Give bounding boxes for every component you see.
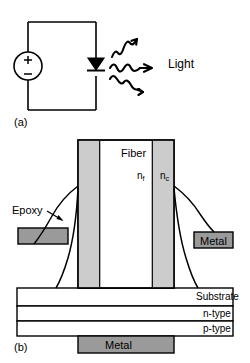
fiber-index-subscript: f xyxy=(143,174,145,183)
led-diode-symbol xyxy=(87,58,105,71)
fiber-index-label: nf xyxy=(137,171,145,182)
epoxy-fillet-right-outer xyxy=(174,186,214,232)
light-ray-middle xyxy=(110,64,152,72)
p-type-label: p-type xyxy=(203,324,231,334)
light-ray-lower xyxy=(110,76,143,95)
cladding-index-subscript: c xyxy=(166,174,170,183)
epoxy-label: Epoxy xyxy=(12,205,43,216)
fiber-cladding-left xyxy=(79,141,100,288)
light-ray-upper xyxy=(112,39,137,57)
epoxy-leader-arrowhead xyxy=(57,215,64,221)
fiber-label: Fiber xyxy=(121,148,146,159)
light-label: Light xyxy=(168,58,194,70)
light-ray-group xyxy=(110,39,152,95)
panel-a-caption: (a) xyxy=(14,117,27,128)
metal-right-label: Metal xyxy=(200,236,227,247)
cladding-index-label: nc xyxy=(160,171,169,182)
p-type-layer xyxy=(17,321,233,336)
metal-bottom-label: Metal xyxy=(105,340,132,351)
led-fiber-coupling-figure: Light (a) Fiber nf nc Epoxy Metal Metal … xyxy=(0,0,250,363)
panel-b-caption: (b) xyxy=(14,342,27,353)
n-type-layer xyxy=(17,306,233,321)
substrate-label: Substrate xyxy=(196,292,239,302)
fiber-cladding-right xyxy=(152,141,173,288)
n-type-label: n-type xyxy=(203,309,231,319)
